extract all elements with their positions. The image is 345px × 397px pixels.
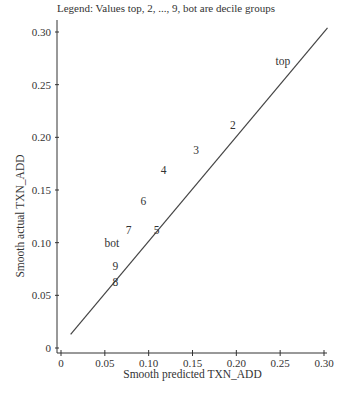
y-tick-label: 0.05 [32, 289, 52, 301]
x-tick-label: 0.30 [314, 357, 334, 369]
x-tick-label: 0.15 [183, 357, 203, 369]
x-tick-label: 0.20 [227, 357, 247, 369]
y-tick-label: 0.20 [32, 131, 52, 143]
decile-label-8: 8 [112, 276, 118, 288]
y-tick-label: 0.15 [32, 184, 52, 196]
decile-label-bot: bot [104, 237, 120, 249]
decile-label-top: top [275, 55, 290, 68]
y-tick-label: 0.10 [32, 237, 52, 249]
x-tick-label: 0.10 [139, 357, 159, 369]
x-tick-label: 0.25 [271, 357, 291, 369]
decile-label-3: 3 [193, 144, 199, 156]
decile-label-2: 2 [230, 119, 236, 131]
decile-label-4: 4 [161, 164, 167, 176]
data-labels: top23456789bot [104, 55, 290, 287]
scatter-plot: 00.050.100.150.200.250.3000.050.100.150.… [0, 0, 345, 397]
decile-label-6: 6 [141, 195, 147, 207]
x-tick-label: 0.05 [95, 357, 115, 369]
diagonal-line [71, 28, 328, 335]
decile-label-9: 9 [112, 260, 118, 272]
decile-label-5: 5 [154, 224, 160, 236]
x-tick-label: 0 [58, 357, 64, 369]
y-tick-label: 0.25 [32, 79, 52, 91]
y-tick-label: 0 [46, 342, 52, 354]
decile-label-7: 7 [126, 224, 132, 236]
axes: 00.050.100.150.200.250.3000.050.100.150.… [32, 20, 334, 369]
reference-line [71, 28, 328, 335]
y-tick-label: 0.30 [32, 26, 52, 38]
